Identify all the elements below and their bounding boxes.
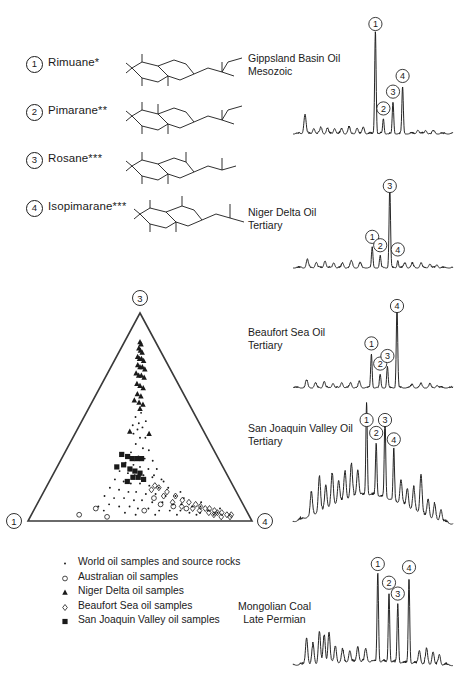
ternary-vertex-label-bottom-right: 4 [262,516,267,527]
ternary-point-dot [137,429,139,431]
peak-label-badge: 3 [381,349,394,362]
ternary-point-dot [135,491,137,493]
peak-number: 3 [395,589,400,599]
peak-number: 2 [381,104,386,114]
peak-label-badge: 3 [391,587,404,600]
peak-label-badge: 4 [390,299,403,312]
peak-number: 2 [386,578,391,588]
ternary-point-dot [133,433,135,435]
ternary-point-dot [142,426,144,428]
chromatogram-signal-path [293,186,453,268]
compound-row-pimarane: 2 Pimarane** [26,94,251,142]
chromatogram-title-line1: Beaufort Sea Oil [248,326,325,339]
ternary-point-dot [167,487,169,489]
ternary-point-dot [123,497,125,499]
legend-item: World oil samples and source rocks [60,556,260,571]
compound-key: 1 Rimuane* 2 Pimarane** [26,46,251,238]
ternary-point-filled-triangle [146,431,152,436]
ternary-point-filled-square [141,477,146,482]
ternary-point-filled-triangle [136,399,142,404]
ternary-point-dot [118,489,120,491]
ternary-point-dot [143,474,145,476]
ternary-point-dot [219,508,221,510]
compound-name: Rimuane* [48,56,100,68]
chromatogram-gippsland: 1234Gippsland Basin OilMesozoic [290,16,456,146]
peak-number: 1 [373,19,378,29]
peak-number: 1 [364,415,369,425]
ternary-point-dot [135,416,137,418]
ternary-point-filled-triangle [135,391,141,396]
compound-name: Pimarane** [48,104,108,116]
peak-number: 4 [406,563,411,573]
ternary-point-dot [176,514,178,516]
chromatogram-niger-delta: 1234Niger Delta OilTertiary [290,178,456,280]
ternary-point-dot [119,470,121,472]
chromatogram-title-line2: Mesozoic [248,65,340,78]
ternary-point-dot [156,468,158,470]
ternary-point-dot [139,483,141,485]
ternary-point-dot [163,481,165,483]
ternary-point-dot [153,474,155,476]
compound-number-badge: 1 [26,56,43,73]
legend-item: Australian oil samples [60,571,260,586]
ternary-point-dot [141,499,143,501]
chromatogram-title-line1: San Joaquin Valley Oil [248,422,353,435]
peak-label-badge: 2 [377,102,390,115]
ternary-point-dot [103,510,105,512]
peak-label-badge: 1 [365,337,378,350]
ternary-point-dot [158,510,160,512]
ternary-point-dot [179,510,181,512]
ternary-point-dot [144,437,146,439]
peak-label-badge: 1 [369,17,382,30]
legend-label: World oil samples and source rocks [78,556,240,567]
ternary-point-open-circle [158,502,163,507]
ternary-point-dot [138,422,140,424]
chromatogram-title: San Joaquin Valley OilTertiary [248,422,353,448]
peak-label-badge: 4 [402,561,415,574]
compound-number-badge: 4 [26,200,43,217]
ternary-point-filled-square [130,475,135,480]
peak-number: 1 [369,339,374,349]
ternary-point-dot [145,420,147,422]
peak-number: 4 [391,435,396,445]
ternary-point-dot [169,510,171,512]
chromatogram-title: Gippsland Basin OilMesozoic [248,52,340,78]
ternary-point-filled-square [119,452,124,457]
ternary-point-dot [129,505,131,507]
ternary-point-dot [199,505,201,507]
compound-name: Rosane*** [48,152,103,164]
ternary-point-filled-square [125,454,130,459]
chromatogram-title-line1: Niger Delta Oil [248,206,316,219]
rosane-structure-icon [124,142,252,188]
legend-marker-filled-triangle [60,585,74,598]
ternary-point-filled-triangle [132,397,138,402]
legend-label: San Joaquin Valley oil samples [78,614,220,625]
chromatogram-mongolian-coal: 1234Mongolian CoalLate Permian [290,556,456,678]
compound-row-rimuane: 1 Rimuane* [26,46,251,94]
ternary-vertex-bottom-right: 4 [258,514,273,529]
ternary-point-dot [137,508,139,510]
peak-label-badge: 3 [383,179,396,192]
ternary-point-dot [124,512,126,514]
compound-number-badge: 2 [26,104,43,121]
ternary-point-filled-square [114,464,119,469]
chromatogram-title-line1: Gippsland Basin Oil [248,52,340,65]
ternary-point-open-circle [152,496,157,501]
ternary-point-dot [147,508,149,510]
peak-number: 3 [390,87,395,97]
ternary-point-dot [152,460,154,462]
peak-label-badge: 4 [391,243,404,256]
chromatogram-title-line2: Late Permian [238,613,311,626]
peak-label-badge: 2 [382,576,395,589]
ternary-point-dot [123,481,125,483]
legend-marker-filled-square [60,614,74,627]
ternary-point-dot [135,443,137,445]
ternary-point-dot [147,468,149,470]
ternary-point-dot [151,476,153,478]
pimarane-structure-icon [124,94,252,140]
peak-number: 1 [375,559,380,569]
ternary-point-open-diamond [165,489,170,495]
compound-footnote-stars: *** [112,200,126,212]
peak-label-badge: 2 [374,239,387,252]
peak-number: 4 [394,301,399,311]
